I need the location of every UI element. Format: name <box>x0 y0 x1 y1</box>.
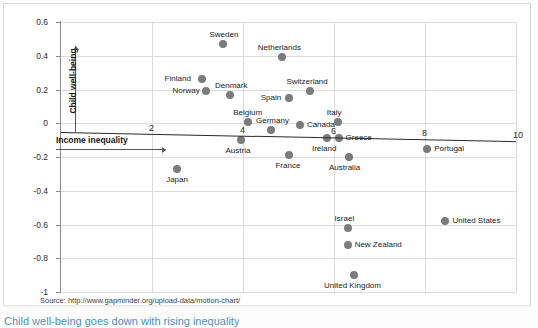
data-point[interactable] <box>344 224 352 232</box>
source-note: Source: http://www.gapminder.org/upload-… <box>40 296 240 305</box>
data-point-label: France <box>275 161 300 170</box>
data-point[interactable] <box>345 153 353 161</box>
data-point-label: Spain <box>261 93 281 102</box>
gridline-horizontal <box>61 56 516 57</box>
data-point[interactable] <box>423 145 431 153</box>
data-point-label: Israel <box>335 214 355 223</box>
gridline-horizontal <box>61 191 516 192</box>
y-axis-label-group: Child well-being <box>64 46 78 132</box>
data-point[interactable] <box>237 136 245 144</box>
data-point-label: Portugal <box>434 144 464 153</box>
data-point[interactable] <box>350 271 358 279</box>
chart-frame: 0.60.40.20-0.2-0.4-0.6-0.8-1 SwedenNethe… <box>3 3 531 306</box>
y-axis-tick-label: 0 <box>4 119 48 128</box>
data-point-label: Japan <box>166 175 188 184</box>
data-point-label: Austria <box>226 146 251 155</box>
data-point[interactable] <box>219 40 227 48</box>
data-point-label: New Zealand <box>355 240 402 249</box>
data-point-label: Denmark <box>215 81 247 90</box>
data-point-label: Finland <box>165 74 191 83</box>
data-point-label: Australia <box>329 163 360 172</box>
y-axis-tick-label: 0.2 <box>4 86 48 95</box>
plot-area: SwedenNetherlandsFinlandNorwayDenmarkSwi… <box>61 22 516 292</box>
data-point-label: Sweden <box>209 30 238 39</box>
data-point-label: Italy <box>327 108 342 117</box>
gridline-horizontal <box>61 90 516 91</box>
data-point-label: United Kingdom <box>324 281 381 290</box>
data-point[interactable] <box>285 94 293 102</box>
data-point-label: Switzerland <box>286 77 327 86</box>
slide-canvas: 0.60.40.20-0.2-0.4-0.6-0.8-1 SwedenNethe… <box>0 0 538 328</box>
data-point[interactable] <box>173 165 181 173</box>
data-point[interactable] <box>285 151 293 159</box>
data-point[interactable] <box>226 91 234 99</box>
x-axis-tick-label: 4 <box>240 125 245 135</box>
data-point-label: United States <box>452 216 500 225</box>
data-point-label: Norway <box>173 86 200 95</box>
x-axis-tick-label: 10 <box>513 130 523 140</box>
data-point-label: Netherlands <box>258 43 301 52</box>
x-axis-tick-label: 8 <box>422 128 427 138</box>
y-axis-tick-label: 0.6 <box>4 18 48 27</box>
gridline-vertical <box>516 22 517 292</box>
gridline-horizontal <box>61 258 516 259</box>
y-axis-tick-label: 0.4 <box>4 52 48 61</box>
data-point[interactable] <box>323 134 331 142</box>
data-point[interactable] <box>306 87 314 95</box>
data-point[interactable] <box>344 241 352 249</box>
data-point[interactable] <box>334 118 342 126</box>
x-axis-arrow-icon <box>56 149 166 150</box>
data-point[interactable] <box>267 126 275 134</box>
data-point[interactable] <box>244 118 252 126</box>
x-axis-tick-label: 6 <box>331 126 336 136</box>
x-axis-label: Income inequality <box>56 135 128 145</box>
y-axis-tick-label: -0.8 <box>4 254 48 263</box>
gridline-horizontal <box>61 22 516 23</box>
slide-caption: Child well-being goes down with rising i… <box>4 315 239 328</box>
y-axis-tick-label: -0.2 <box>4 153 48 162</box>
data-point-label: Ireland <box>312 144 336 153</box>
data-point[interactable] <box>198 75 206 83</box>
y-axis-tick-label: -0.4 <box>4 187 48 196</box>
data-point[interactable] <box>202 87 210 95</box>
y-axis-label: Child well-being <box>68 45 78 117</box>
gridline-horizontal <box>61 225 516 226</box>
data-point-label: Germany <box>256 116 289 125</box>
x-axis-label-group: Income inequality <box>56 135 176 157</box>
y-axis-tick-label: -0.6 <box>4 221 48 230</box>
data-point[interactable] <box>278 53 286 61</box>
gridline-horizontal <box>61 292 516 293</box>
x-axis-tick-label: 2 <box>149 123 154 133</box>
y-axis-tick-labels: 0.60.40.20-0.2-0.4-0.6-0.8-1 <box>4 4 54 328</box>
data-point[interactable] <box>296 121 304 129</box>
